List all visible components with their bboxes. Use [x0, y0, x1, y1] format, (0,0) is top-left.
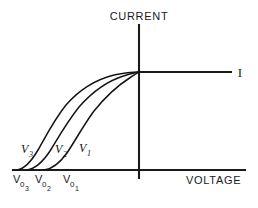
threshold-label-v03: V 0 3: [13, 173, 29, 192]
threshold-label-v01-subscript2: 1: [75, 185, 79, 192]
curve-label-v3: V 3: [21, 142, 33, 159]
y-axis-title: CURRENT: [110, 10, 169, 22]
saturation-current-label: I: [238, 65, 242, 80]
threshold-label-v01: V 0 1: [63, 173, 79, 192]
figure-canvas: CURRENT VOLTAGE I V 3 V 2 V 1 V 0 3 V 0: [0, 0, 258, 208]
threshold-label-v02-subscript2: 2: [47, 185, 51, 192]
curve-v2: [27, 72, 139, 170]
curve-label-v2: V 2: [55, 142, 67, 159]
curve-label-v1-subscript: 1: [87, 149, 91, 158]
curve-label-v1: V 1: [79, 141, 91, 158]
x-axis-title: VOLTAGE: [186, 174, 241, 186]
curve-v3: [17, 72, 139, 170]
threshold-label-v03-subscript2: 3: [25, 185, 29, 192]
threshold-label-v02: V 0 2: [35, 173, 51, 192]
curve-label-v3-subscript: 3: [28, 150, 33, 159]
iv-characteristic-figure: CURRENT VOLTAGE I V 3 V 2 V 1 V 0 3 V 0: [0, 0, 258, 208]
curve-label-v2-subscript: 2: [63, 150, 67, 159]
